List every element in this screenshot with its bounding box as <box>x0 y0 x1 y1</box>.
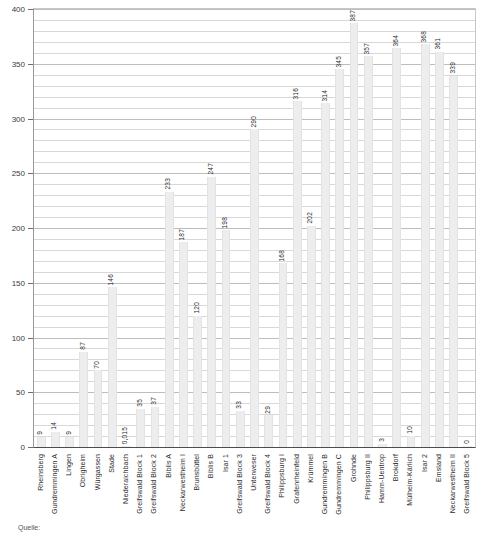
x-tick-label: Gundremmingen B <box>321 454 328 514</box>
x-tick-label: Stade <box>108 454 115 473</box>
bar-value-label: 314 <box>322 90 329 101</box>
x-tick-label: Greifswald Block 1 <box>136 454 143 514</box>
y-tick-label: 150 <box>12 278 25 287</box>
x-tick-label: Brunsbüttel <box>193 454 200 491</box>
bar <box>279 263 288 447</box>
bar-value-label: 146 <box>108 274 115 285</box>
bar <box>392 48 401 447</box>
x-tick-label: Philippsburg II <box>364 454 371 500</box>
bar-value-label: 0,015 <box>122 427 129 444</box>
bar-value-label: 368 <box>421 31 428 42</box>
bar-value-label: 364 <box>393 35 400 46</box>
bar <box>307 226 316 447</box>
x-tick-label: Greifswald Block 2 <box>150 454 157 514</box>
bar <box>407 436 416 447</box>
x-tick-label: Mülheim-Kärlich <box>406 454 413 506</box>
bar <box>136 409 145 447</box>
bar <box>378 444 387 447</box>
x-tick-label: Grafenrheinfeld <box>293 454 300 504</box>
x-tick-label: Gundremmingen C <box>335 454 342 515</box>
bar-value-label: 70 <box>94 361 101 369</box>
bar <box>65 437 74 447</box>
bar <box>321 103 330 447</box>
y-tick-label: 50 <box>16 388 25 397</box>
y-axis: 050100150200250300350400 <box>0 0 33 456</box>
bar-value-label: 37 <box>151 397 158 405</box>
bar <box>179 242 188 447</box>
bar-value-label: 14 <box>51 422 58 430</box>
bar <box>165 192 174 447</box>
bar <box>250 129 259 447</box>
x-tick-label: Unterweser <box>250 454 257 491</box>
x-tick-label: Brokdorf <box>392 454 399 481</box>
bar-value-label: 316 <box>293 88 300 99</box>
x-tick-label: Emsland <box>435 454 442 482</box>
bar-value-label: 87 <box>80 342 87 350</box>
plot-area: 914987701460,015353723318712024719833290… <box>33 8 476 448</box>
bar <box>151 407 160 448</box>
x-tick-label: Philippsburg I <box>278 454 285 498</box>
bar <box>51 432 60 447</box>
bar-value-label: 33 <box>236 401 243 409</box>
bar-value-label: 35 <box>137 399 144 407</box>
bar-value-label: 345 <box>336 56 343 67</box>
bar-value-label: 120 <box>194 302 201 313</box>
bar-value-label: 247 <box>208 163 215 174</box>
x-tick-label: Greifswald Block 5 <box>463 454 470 514</box>
x-tick-label: Lingen <box>65 454 72 476</box>
bar <box>463 446 472 447</box>
x-tick-label: Greifswald Block 4 <box>264 454 271 514</box>
bars-layer: 914987701460,015353723318712024719833290… <box>34 9 475 447</box>
bar <box>108 287 117 447</box>
x-tick-label: Krümmel <box>307 454 314 483</box>
x-tick-label: Greifswald Block 3 <box>236 454 243 514</box>
gridline-major <box>34 447 475 448</box>
bar-value-label: 357 <box>364 43 371 54</box>
bar <box>293 101 302 447</box>
bar <box>449 76 458 447</box>
bar <box>193 316 202 447</box>
bar-value-label: 168 <box>279 250 286 261</box>
bar <box>236 411 245 447</box>
bar <box>122 446 131 447</box>
x-tick-label: Neckarwestheim I <box>179 454 186 511</box>
bar-value-label: 187 <box>179 229 186 240</box>
x-tick-label: Niederaichbach <box>122 454 129 504</box>
bar-value-label: 9 <box>37 431 44 435</box>
x-tick-label: Würgassen <box>94 454 101 490</box>
bar-value-label: 339 <box>450 62 457 73</box>
bar <box>264 415 273 447</box>
y-tick-label: 100 <box>12 333 25 342</box>
y-tick-label: 400 <box>12 5 25 14</box>
bar-value-label: 361 <box>435 38 442 49</box>
bar-value-label: 233 <box>165 178 172 189</box>
x-tick-label: Rheinsberg <box>37 454 44 491</box>
bar <box>79 352 88 447</box>
bar-value-label: 290 <box>251 116 258 127</box>
y-tick-label: 0 <box>21 443 25 452</box>
x-tick-label: Grohnde <box>350 454 357 482</box>
bar-value-label: 3 <box>379 438 386 442</box>
bar-value-label: 387 <box>350 10 357 21</box>
x-tick-label: Biblis B <box>207 454 214 478</box>
x-tick-label: Isar 1 <box>222 454 229 472</box>
bar-value-label: 9 <box>66 431 73 435</box>
y-tick-label: 350 <box>12 59 25 68</box>
bar <box>207 177 216 447</box>
x-tick-label: Biblis A <box>165 454 172 478</box>
bar <box>335 69 344 447</box>
bar <box>222 230 231 447</box>
bar <box>364 56 373 447</box>
bar <box>37 437 46 447</box>
bar-value-label: 198 <box>222 217 229 228</box>
x-tick-label: Isar 2 <box>421 454 428 472</box>
y-tick-label: 300 <box>12 114 25 123</box>
x-tick-label: Neckarwestheim II <box>449 454 456 513</box>
footnote: Quelle: <box>18 524 138 536</box>
bar-chart: 050100150200250300350400 914987701460,01… <box>0 0 481 544</box>
y-tick-label: 200 <box>12 224 25 233</box>
x-tick-label: Gundremmingen A <box>51 454 58 514</box>
y-tick-label: 250 <box>12 169 25 178</box>
bar <box>421 44 430 447</box>
bar-value-label: 0 <box>464 440 471 444</box>
